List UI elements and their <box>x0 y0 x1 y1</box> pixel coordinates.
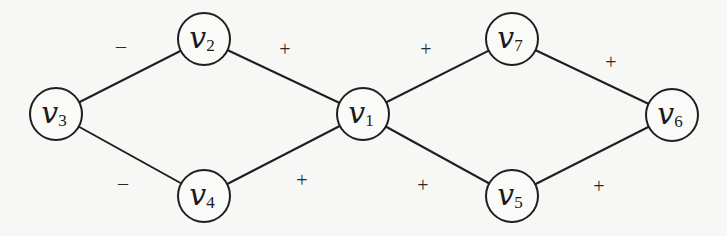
edge-sign-v3-v2: – <box>115 35 127 57</box>
edge-sign-v1-v7: + <box>420 38 431 60</box>
node-label-subscript: 6 <box>674 112 683 131</box>
node-label-main: v <box>657 96 674 131</box>
edge-sign-v4-v1: + <box>296 169 307 191</box>
node-v1: v1 <box>337 88 389 140</box>
node-label-subscript: 4 <box>206 193 215 212</box>
node-v5: v5 <box>486 170 538 222</box>
node-v6: v6 <box>646 89 698 141</box>
node-label-subscript: 1 <box>365 111 374 130</box>
node-label-subscript: 5 <box>514 193 523 212</box>
edge-sign-v5-v6: + <box>593 175 604 197</box>
edge-sign-v3-v4: – <box>117 172 129 194</box>
node-label-main: v <box>497 20 514 55</box>
node-v3: v3 <box>30 88 82 140</box>
node-label-subscript: 2 <box>206 36 215 55</box>
node-label-subscript: 7 <box>514 36 523 55</box>
node-v4: v4 <box>178 170 230 222</box>
node-label-subscript: 3 <box>58 111 67 130</box>
node-v2: v2 <box>178 13 230 65</box>
node-label-main: v <box>41 95 58 130</box>
edge-sign-v7-v6: + <box>605 51 616 73</box>
node-label-main: v <box>189 20 206 55</box>
node-label-main: v <box>497 177 514 212</box>
edge-sign-v1-v5: + <box>417 174 428 196</box>
node-label-main: v <box>348 95 365 130</box>
signed-graph-diagram: ––++++++ v1v2v3v4v5v6v7 <box>0 0 727 236</box>
node-label-main: v <box>189 177 206 212</box>
node-v7: v7 <box>486 13 538 65</box>
edge-sign-v2-v1: + <box>279 38 290 60</box>
